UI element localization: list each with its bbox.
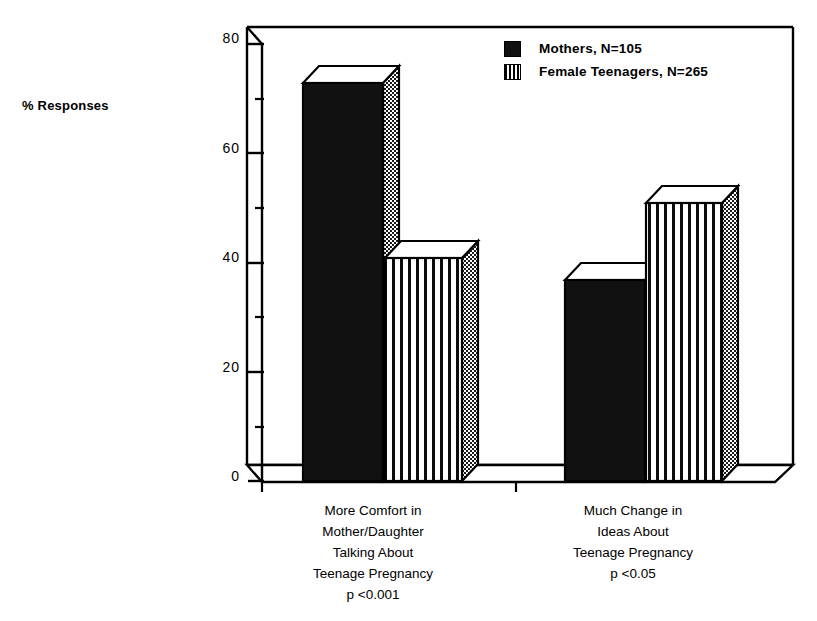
category-label-1-pvalue: p <0.001: [248, 584, 498, 605]
category-label-1-line-2: Mother/Daughter: [248, 521, 498, 542]
legend-label-mothers: Mothers, N=105: [539, 41, 642, 56]
category-label-1-line-1: More Comfort in: [248, 500, 498, 521]
category-label-2-line-2: Ideas About: [518, 521, 748, 542]
category-label-2: Much Change in Ideas About Teenage Pregn…: [518, 500, 748, 584]
legend: Mothers, N=105 Female Teenagers, N=265: [504, 38, 784, 84]
category-label-2-pvalue: p <0.05: [518, 563, 748, 584]
legend-swatch-striped-icon: [504, 64, 521, 80]
bar-group2-teenagers: [646, 186, 738, 481]
legend-label-teenagers: Female Teenagers, N=265: [539, 64, 708, 79]
x-axis-ticks: [262, 482, 516, 492]
category-label-2-line-1: Much Change in: [518, 500, 748, 521]
category-label-1-line-4: Teenage Pregnancy: [248, 563, 498, 584]
category-label-1: More Comfort in Mother/Daughter Talking …: [248, 500, 498, 605]
legend-item-teenagers: Female Teenagers, N=265: [504, 61, 784, 82]
legend-item-mothers: Mothers, N=105: [504, 38, 784, 59]
axis-front-vertical: [247, 27, 262, 482]
bar-chart: % Responses 80 60 40 20 0: [0, 0, 817, 621]
category-label-1-line-3: Talking About: [248, 542, 498, 563]
category-label-2-line-3: Teenage Pregnancy: [518, 542, 748, 563]
bar-group1-teenagers: [385, 241, 478, 481]
legend-swatch-solid-icon: [504, 41, 521, 57]
